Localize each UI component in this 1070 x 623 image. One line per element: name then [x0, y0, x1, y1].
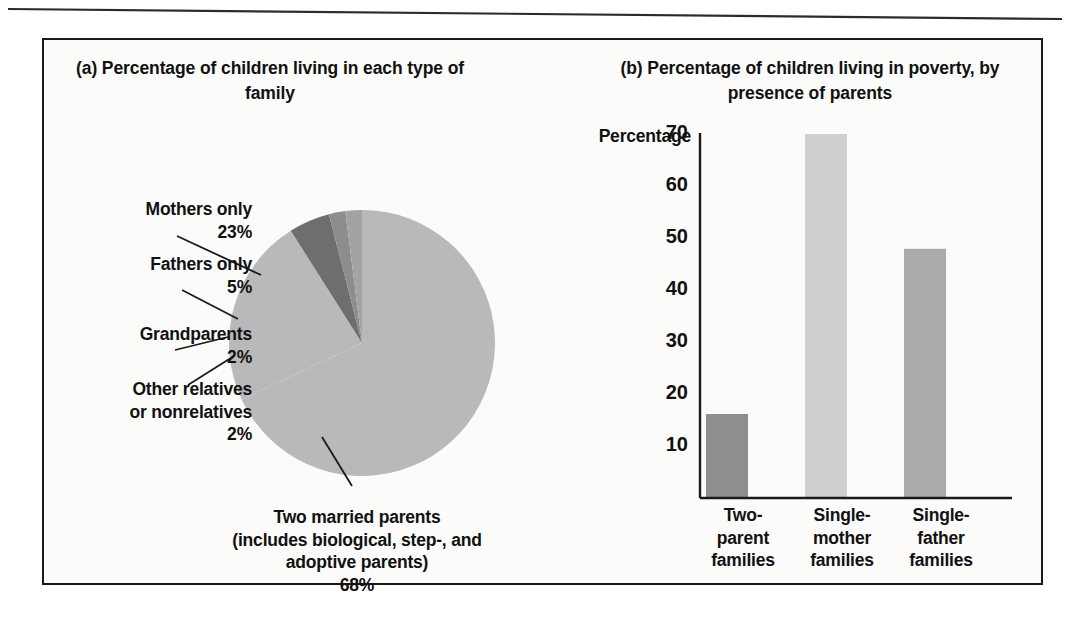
pie-chart-graphic — [42, 38, 562, 585]
bar-chart-panel: Percentage 70 60 50 40 30 20 10 Two- par… — [560, 38, 1043, 585]
pie-label-fathers-only: Fathers only 5% — [52, 253, 252, 298]
bar — [904, 249, 946, 498]
x-category-single-mother: Single- mother families — [792, 504, 892, 572]
y-tick-70: 70 — [648, 121, 688, 144]
x-category-single-father: Single- father families — [891, 504, 991, 572]
pie-label-other-relatives: Other relatives or nonrelatives 2% — [42, 378, 252, 446]
y-tick-60: 60 — [648, 173, 688, 196]
pie-label-mothers-only: Mothers only 23% — [52, 198, 252, 243]
y-tick-10: 10 — [648, 433, 688, 456]
y-tick-20: 20 — [648, 381, 688, 404]
x-category-two-parent: Two- parent families — [693, 504, 793, 572]
pie-chart-panel: Mothers only 23% Fathers only 5% Grandpa… — [42, 38, 562, 585]
page-header-rule — [0, 6, 1070, 24]
pie-label-two-married-parents: Two married parents (includes biological… — [192, 506, 522, 596]
bar — [805, 134, 847, 498]
y-tick-50: 50 — [648, 225, 688, 248]
pie-label-grandparents: Grandparents 2% — [42, 323, 252, 368]
bar — [706, 414, 748, 498]
bar-chart-graphic — [560, 38, 1043, 585]
y-tick-40: 40 — [648, 277, 688, 300]
y-tick-30: 30 — [648, 329, 688, 352]
